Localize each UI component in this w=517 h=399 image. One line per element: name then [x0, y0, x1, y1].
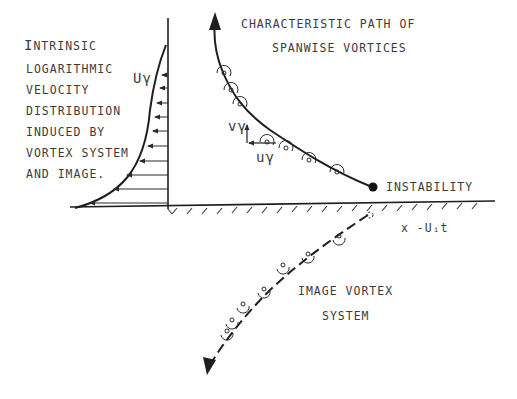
spanwise-vortex-path: [209, 12, 378, 192]
v-gamma-label: vγ: [228, 118, 247, 134]
intrinsic-line-5: VORTEX SYSTEM: [26, 146, 129, 160]
wall-coordinate-label: x -Uᵢt: [401, 221, 449, 235]
diagram-canvas: [0, 0, 517, 399]
intrinsic-line-3: DISTRIBUTION: [26, 104, 121, 118]
velocity-components: [247, 125, 276, 143]
image-vortex-line-1: IMAGE VORTEX: [298, 284, 393, 298]
profile-velocity-arrows: [90, 75, 168, 203]
path-title-line-1: CHARACTERISTIC PATH OF: [241, 17, 415, 31]
image-path-arrowhead-down: [203, 357, 216, 375]
intrinsic-line-2: VELOCITY: [26, 83, 89, 97]
path-title-line-2: SPANWISE VORTICES: [272, 41, 407, 55]
intrinsic-line-4: INDUCED BY: [26, 125, 105, 139]
u-gamma-profile-label: Uγ: [133, 70, 152, 86]
instability-label: INSTABILITY: [386, 180, 473, 194]
intrinsic-line-6: AND IMAGE.: [26, 167, 105, 181]
intrinsic-title-rest: NTRINSIC: [33, 39, 96, 53]
path-arrowhead-up: [209, 12, 221, 30]
intrinsic-title: INTRINSIC: [24, 37, 97, 53]
instability-point: [369, 183, 378, 192]
image-vortex-line-2: SYSTEM: [322, 309, 370, 323]
intrinsic-line-1: LOGARITHMIC: [26, 62, 113, 76]
u-gamma-vector-label: uγ: [256, 149, 275, 165]
